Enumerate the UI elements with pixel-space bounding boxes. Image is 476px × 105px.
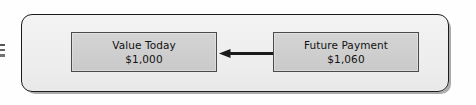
node-value-today[interactable]: Value Today $1,000 [71,32,217,72]
node-future-payment-title: Future Payment [304,39,388,52]
diagram-frame: Value Today $1,000 Future Payment $1,060 [21,14,449,92]
node-future-payment[interactable]: Future Payment $1,060 [273,32,419,72]
node-future-payment-amount: $1,060 [327,53,364,66]
arrow-left-icon [217,47,273,60]
node-value-today-amount: $1,000 [125,53,162,66]
page-margin-artifact [0,44,5,57]
node-value-today-title: Value Today [112,39,176,52]
scan-page-background: Value Today $1,000 Future Payment $1,060 [0,0,476,105]
